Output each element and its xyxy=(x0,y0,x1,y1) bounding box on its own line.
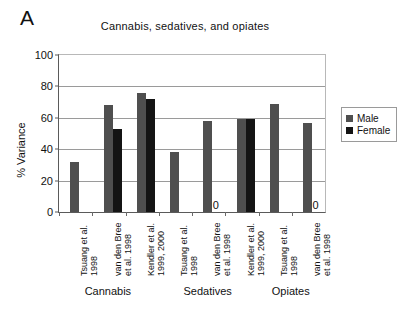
legend-item-male: Male xyxy=(346,113,390,124)
y-tick-label: 40 xyxy=(41,143,59,155)
x-tick-label: Kendler et al.1999, 2000 xyxy=(246,223,266,276)
group-label: Opiates xyxy=(272,285,310,297)
bar-male xyxy=(137,93,146,212)
legend-label-female: Female xyxy=(357,125,390,136)
x-tick-label: Tsuang et al.1998 xyxy=(179,225,199,276)
x-tick-label: van den Breeet al. 1998 xyxy=(212,222,232,276)
bar-male xyxy=(104,105,113,212)
bar-female xyxy=(113,129,122,212)
x-tick-label: Tsuang et al.1998 xyxy=(79,225,99,276)
bar-male xyxy=(303,123,312,212)
figure-panel-a: A Cannabis, sedatives, and opiates % Var… xyxy=(0,0,415,318)
y-tick-label: 80 xyxy=(41,80,59,92)
y-axis-label: % Variance xyxy=(15,15,27,105)
x-tick-label: van den Breeet al. 1998 xyxy=(113,222,133,276)
bar-female xyxy=(146,99,155,212)
group-label: Sedatives xyxy=(183,285,231,297)
bar-male xyxy=(70,162,79,212)
chart-title: Cannabis, sedatives, and opiates xyxy=(60,20,310,32)
plot-area: 020406080100 00 xyxy=(58,54,326,213)
y-tick-label: 20 xyxy=(41,175,59,187)
x-tick-label: van den Breeet al. 1998 xyxy=(312,222,332,276)
zero-value-label: 0 xyxy=(313,200,319,211)
legend-item-female: Female xyxy=(346,125,390,136)
bar-female xyxy=(246,119,255,212)
bar-male xyxy=(170,152,179,212)
y-tick-label: 60 xyxy=(41,112,59,124)
bar-male xyxy=(203,121,212,212)
x-tick-label: Tsuang et al.1998 xyxy=(279,225,299,276)
x-axis-tick-labels: Tsuang et al.1998van den Breeet al. 1998… xyxy=(58,216,326,278)
legend: Male Female xyxy=(341,107,397,142)
zero-value-label: 0 xyxy=(213,200,219,211)
legend-swatch-female-icon xyxy=(346,127,353,134)
legend-swatch-male-icon xyxy=(346,115,353,122)
y-axis-label-text: % Variance xyxy=(15,105,27,195)
x-tick-label: Kendler et al.1999, 2000 xyxy=(146,223,166,276)
legend-label-male: Male xyxy=(357,113,379,124)
group-label: Cannabis xyxy=(85,285,131,297)
bar-male xyxy=(237,119,246,212)
x-axis-group-labels: CannabisSedativesOpiates xyxy=(58,285,326,305)
bar-series-container: 00 xyxy=(59,55,325,212)
y-tick-label: 100 xyxy=(35,49,59,61)
bar-male xyxy=(270,104,279,212)
